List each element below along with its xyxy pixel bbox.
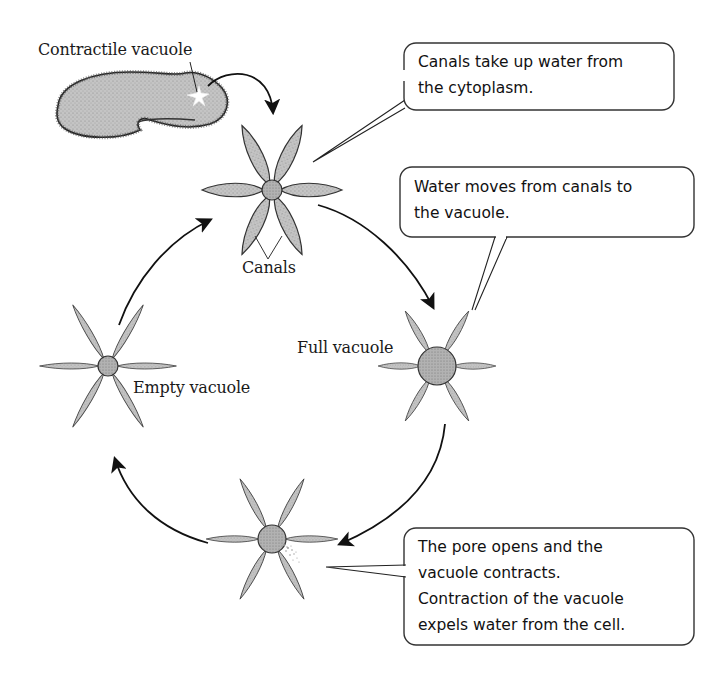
callout-text-2: Water moves from canals to the vacuole. bbox=[414, 174, 632, 226]
arrow-right-to-bottom bbox=[340, 424, 445, 544]
callout-2-line-1: Water moves from canals to bbox=[414, 174, 632, 200]
callout-3-line-3: Contraction of the vacuole bbox=[418, 586, 625, 612]
label-empty-vacuole: Empty vacuole bbox=[133, 378, 250, 397]
callout-pointer-1 bbox=[313, 100, 405, 162]
callout-2-line-2: the vacuole. bbox=[414, 200, 632, 226]
vacuole-stage-top bbox=[202, 123, 342, 259]
arrow-left-to-top bbox=[119, 220, 210, 325]
callout-1-line-1: Canals take up water from bbox=[418, 49, 623, 75]
label-contractile-vacuole: Contractile vacuole bbox=[38, 40, 192, 59]
callout-pointer-2 bbox=[472, 237, 507, 310]
callout-pointer-3 bbox=[326, 565, 406, 577]
contractile-vacuole-diagram: Contractile vacuole Canals Full vacuole … bbox=[0, 0, 716, 676]
paramecium-cell bbox=[57, 62, 227, 137]
callout-text-3: The pore opens and the vacuole contracts… bbox=[418, 534, 625, 638]
callout-3-line-4: expels water from the cell. bbox=[418, 612, 625, 638]
callout-1-line-2: the cytoplasm. bbox=[418, 75, 623, 101]
callout-3-line-1: The pore opens and the bbox=[418, 534, 625, 560]
vacuole-stage-right bbox=[378, 309, 496, 422]
vacuole-stage-left bbox=[40, 303, 177, 428]
vacuole-stage-bottom bbox=[206, 477, 338, 600]
label-canals: Canals bbox=[242, 258, 296, 277]
callout-text-1: Canals take up water from the cytoplasm. bbox=[418, 49, 623, 101]
arrow-bottom-to-left bbox=[115, 459, 208, 543]
label-full-vacuole: Full vacuole bbox=[297, 338, 393, 357]
callout-3-line-2: vacuole contracts. bbox=[418, 560, 625, 586]
